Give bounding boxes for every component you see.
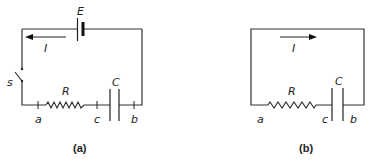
- resistor-icon: [46, 102, 84, 108]
- current-label-b: I: [292, 42, 295, 55]
- resistor-label-b: R: [288, 85, 296, 98]
- caption-a: (a): [73, 142, 87, 154]
- capacitor-icon: [332, 88, 343, 121]
- wire-loop-b: [251, 29, 364, 105]
- node-c-label-b: c: [322, 113, 328, 126]
- node-c-label: c: [94, 113, 100, 126]
- node-a-label: a: [35, 113, 42, 126]
- resistor-label-a: R: [62, 85, 70, 98]
- current-arrow-right-icon: [280, 34, 317, 40]
- resistor-icon: [268, 102, 316, 108]
- switch-icon: [15, 68, 23, 82]
- capacitor-label-b: C: [335, 75, 343, 88]
- circuit-figure: E I s R C a c b (a): [0, 0, 373, 163]
- capacitor-icon: [110, 89, 119, 121]
- node-b-label-b: b: [350, 113, 357, 126]
- capacitor-label-a: C: [112, 76, 120, 89]
- current-label-a: I: [44, 42, 47, 55]
- battery-icon: [78, 18, 84, 41]
- node-a-label-b: a: [257, 113, 264, 126]
- current-arrow-left-icon: [25, 34, 66, 40]
- switch-label: s: [7, 76, 13, 89]
- emf-label: E: [77, 5, 84, 18]
- node-b-label: b: [131, 113, 138, 126]
- circuit-a: E I s R C a c b (a): [7, 5, 142, 154]
- circuit-b: I R C a c b (b): [251, 29, 364, 154]
- wire-right-a: [134, 29, 142, 105]
- caption-b: (b): [299, 142, 313, 154]
- wire-left-a: [22, 29, 38, 105]
